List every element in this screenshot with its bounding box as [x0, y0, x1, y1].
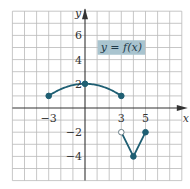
y-tick-label: −4 — [66, 150, 82, 163]
y-tick-label: 2 — [75, 78, 82, 91]
axes: xy — [12, 7, 189, 180]
closed-point-marker — [119, 93, 125, 99]
y-tick-label: 4 — [75, 54, 82, 67]
y-axis-label: y — [74, 7, 82, 20]
closed-point-marker — [143, 129, 149, 135]
x-tick-label: 3 — [118, 112, 125, 125]
grid — [12, 11, 181, 180]
y-tick-label: −2 — [66, 126, 82, 139]
x-tick-label: −3 — [41, 112, 57, 125]
closed-point-marker — [131, 154, 137, 160]
x-tick-label: 5 — [142, 112, 149, 125]
function-graph: xy y = f(x) −335642−2−4 — [0, 0, 190, 189]
y-axis-arrow-icon — [82, 8, 88, 19]
x-axis-arrow-icon — [177, 105, 188, 111]
closed-point-marker — [46, 93, 52, 99]
y-tick-label: 6 — [75, 29, 82, 42]
x-axis-label: x — [183, 112, 190, 125]
open-point-marker — [119, 129, 125, 135]
function-label: y = f(x) — [98, 40, 145, 55]
closed-point-marker — [82, 81, 88, 87]
function-label-text: y = f(x) — [100, 41, 142, 54]
